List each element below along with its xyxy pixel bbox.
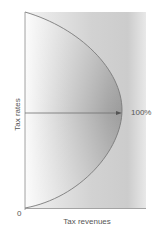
peak-annotation: 100% bbox=[131, 108, 151, 117]
origin-label: 0 bbox=[17, 209, 21, 218]
y-axis-label: Tax rates bbox=[13, 95, 22, 135]
x-axis-label: Tax revenues bbox=[54, 217, 120, 226]
laffer-curve-chart: Tax rates Tax revenues 0 100% bbox=[0, 0, 159, 233]
